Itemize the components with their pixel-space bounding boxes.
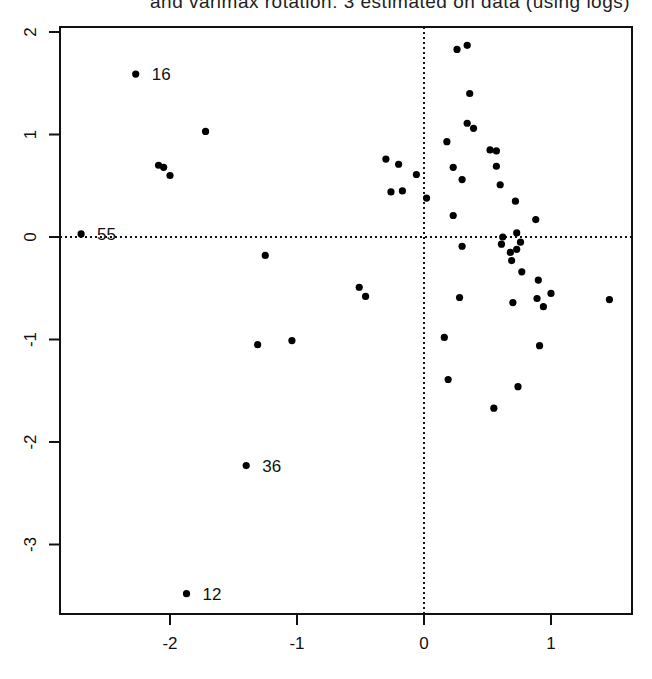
data-point — [166, 172, 173, 179]
data-point — [513, 229, 520, 236]
data-point — [382, 156, 389, 163]
data-point — [453, 46, 460, 53]
data-point — [356, 284, 363, 291]
data-point — [78, 230, 85, 237]
data-point — [507, 249, 514, 256]
data-point — [456, 294, 463, 301]
data-point — [512, 198, 519, 205]
reference-lines — [60, 27, 632, 614]
y-tick-label: -3 — [21, 537, 40, 552]
data-point — [464, 42, 471, 49]
x-tick-label: -2 — [162, 634, 177, 653]
data-point — [509, 299, 516, 306]
data-point — [547, 290, 554, 297]
x-tick-label: 0 — [419, 634, 428, 653]
y-tick-label: 2 — [21, 27, 40, 36]
data-point — [399, 187, 406, 194]
data-point — [606, 296, 613, 303]
data-point — [532, 216, 539, 223]
data-point — [254, 341, 261, 348]
data-point — [518, 268, 525, 275]
data-point — [202, 128, 209, 135]
point-labels: 16553612 — [97, 65, 281, 604]
y-tick-label: 1 — [21, 130, 40, 139]
data-point — [288, 337, 295, 344]
data-point — [441, 334, 448, 341]
data-point — [513, 246, 520, 253]
data-point — [160, 164, 167, 171]
y-tick-label: 0 — [21, 232, 40, 241]
data-point — [535, 276, 542, 283]
data-point — [464, 120, 471, 127]
plot-frame — [60, 27, 632, 614]
data-point — [387, 188, 394, 195]
data-point — [459, 243, 466, 250]
data-point — [493, 147, 500, 154]
data-point — [262, 252, 269, 259]
data-point — [466, 90, 473, 97]
point-label: 36 — [262, 457, 281, 476]
data-point — [443, 138, 450, 145]
scatter-plot: -2-101 210-1-2-3 16553612 — [0, 0, 652, 679]
data-point — [508, 257, 515, 264]
x-tick-label: 1 — [546, 634, 555, 653]
data-point — [450, 212, 457, 219]
data-point — [132, 70, 139, 77]
data-point — [413, 171, 420, 178]
data-point — [490, 405, 497, 412]
data-point — [514, 383, 521, 390]
data-point — [540, 303, 547, 310]
data-point — [362, 293, 369, 300]
data-point — [243, 462, 250, 469]
data-point — [423, 194, 430, 201]
data-points — [78, 42, 614, 598]
y-tick-label: -1 — [21, 332, 40, 347]
data-point — [445, 376, 452, 383]
data-point — [498, 241, 505, 248]
data-point — [536, 342, 543, 349]
point-label: 12 — [203, 585, 222, 604]
data-point — [497, 181, 504, 188]
point-label: 16 — [152, 65, 171, 84]
point-label: 55 — [97, 225, 116, 244]
data-point — [486, 146, 493, 153]
data-point — [450, 164, 457, 171]
data-point — [493, 163, 500, 170]
data-point — [395, 161, 402, 168]
x-tick-label: -1 — [289, 634, 304, 653]
data-point — [499, 233, 506, 240]
x-axis: -2-101 — [162, 614, 555, 653]
y-axis: 210-1-2-3 — [21, 27, 60, 552]
data-point — [459, 176, 466, 183]
y-tick-label: -2 — [21, 434, 40, 449]
data-point — [517, 239, 524, 246]
data-point — [470, 125, 477, 132]
data-point — [533, 295, 540, 302]
data-point — [183, 590, 190, 597]
